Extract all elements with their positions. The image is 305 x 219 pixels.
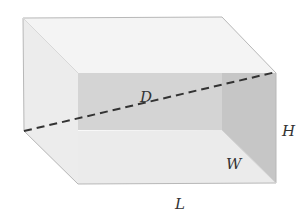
label-height: H <box>281 122 296 140</box>
box-diagram: D H W L <box>0 0 305 219</box>
front-face <box>78 73 276 184</box>
label-width: W <box>226 155 243 173</box>
label-diagonal: D <box>139 88 152 106</box>
label-length: L <box>174 195 185 213</box>
